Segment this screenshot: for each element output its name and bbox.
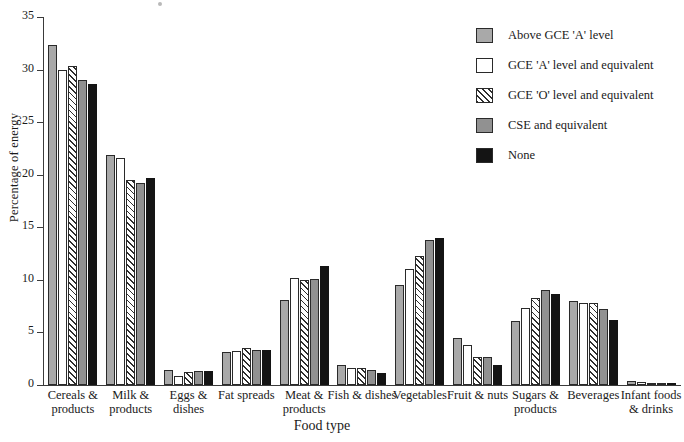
legend-swatch [476,88,493,103]
legend-swatch [476,148,493,163]
bar [194,371,203,385]
bar [415,256,424,385]
bar-group: Fat spreads [217,17,275,385]
bar [435,238,444,385]
legend-item: GCE 'A' level and equivalent [476,50,676,80]
bar [589,303,598,385]
y-axis-tick: 10 [37,280,43,281]
y-axis-tick-mark [37,385,43,386]
bar [377,373,386,385]
bar [252,350,261,385]
bar-group-bars [44,17,102,385]
bar-group-bars [391,17,449,385]
y-axis-tick: 30 [37,70,43,71]
bar [136,183,145,385]
bar [541,290,550,385]
bar-group: Fish & dishes [333,17,391,385]
y-axis-tick-label: 35 [22,9,34,21]
y-axis-tick-label: 0 [28,377,34,389]
bar [337,365,346,385]
bar [453,338,462,385]
y-axis-tick-mark [37,17,43,18]
y-axis-tick: 35 [37,17,43,18]
bar [164,370,173,385]
bar [647,383,656,385]
bar-group-bars [217,17,275,385]
bar [146,178,155,385]
bar-group: Meat & products [275,17,333,385]
legend-label: GCE 'A' level and equivalent [508,58,653,73]
x-axis-category-label: Infant foods & drinks [605,389,684,416]
y-axis-tick: 0 [37,385,43,386]
bar [483,357,492,385]
y-axis-tick: 15 [37,227,43,228]
x-axis-title: Food type [0,418,684,434]
y-axis-tick-label: 25 [22,114,34,126]
y-axis-tick: 5 [37,332,43,333]
bar [531,298,540,385]
legend-swatch [476,58,493,73]
legend-label: Above GCE 'A' level [508,28,614,43]
bar [511,321,520,385]
bar [463,345,472,385]
bar-chart: 05101520253035 Percentage of energy Cere… [0,0,684,442]
bar [174,376,183,385]
bar [493,365,502,385]
legend-label: None [508,148,535,163]
bar [473,357,482,385]
bar [184,372,193,385]
bar [357,368,366,385]
legend-item: CSE and equivalent [476,110,676,140]
bar [637,382,646,385]
bar-group: Milk & products [102,17,160,385]
bar [579,303,588,385]
x-axis-line [43,385,681,386]
bar [395,285,404,385]
bar [126,180,135,385]
bar [627,381,636,385]
bar [232,351,241,385]
bar-group-bars [333,17,391,385]
bar [425,240,434,385]
bar [320,266,329,385]
bar-group-bars [160,17,218,385]
bar [290,278,299,385]
bar [521,308,530,385]
legend-label: CSE and equivalent [508,118,607,133]
page-artifact-speck [158,2,162,6]
bar [569,301,578,385]
bar [204,371,213,385]
bar [242,348,251,385]
bar [300,280,309,385]
legend-swatch [476,118,493,133]
legend-item: GCE 'O' level and equivalent [476,80,676,110]
bar [262,350,271,385]
bar-group: Eggs & dishes [160,17,218,385]
y-axis-tick-mark [37,70,43,71]
bar [222,352,231,385]
y-axis-title: Percentage of energy [7,78,22,258]
y-axis-tick: 25 [37,122,43,123]
bar [551,294,560,385]
bar [599,309,608,385]
bar [88,84,97,385]
bar-group: Cereals & products [44,17,102,385]
legend-swatch [476,28,493,43]
y-axis-tick-label: 30 [22,62,34,74]
bar-group: Vegetables [391,17,449,385]
bar [347,368,356,385]
bar [48,45,57,385]
y-axis-tick-label: 10 [22,272,34,284]
bar-group-bars [275,17,333,385]
y-axis-tick-label: 20 [22,167,34,179]
legend-item: None [476,140,676,170]
y-axis-tick: 20 [37,175,43,176]
y-axis-tick-mark [37,175,43,176]
bar [78,80,87,385]
y-axis-tick-mark [37,280,43,281]
bar [310,279,319,385]
bar-group-bars [102,17,160,385]
bar [280,300,289,385]
y-axis-tick-mark [37,122,43,123]
y-axis-tick-label: 15 [22,219,34,231]
